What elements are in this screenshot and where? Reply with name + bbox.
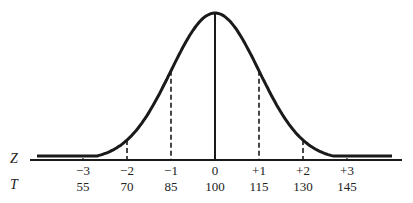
- t-tick-label: 85: [165, 179, 178, 195]
- z-tick-label: −1: [164, 163, 178, 179]
- t-tick-label: 115: [249, 179, 268, 195]
- z-tick-label: 0: [212, 163, 219, 179]
- z-tick-label: +2: [296, 163, 310, 179]
- t-tick-label: 100: [205, 179, 225, 195]
- z-axis-label: Z: [10, 151, 18, 167]
- t-axis-label: T: [10, 177, 18, 193]
- z-tick-label: +3: [340, 163, 354, 179]
- t-tick-label: 145: [337, 179, 357, 195]
- t-tick-label: 130: [293, 179, 313, 195]
- z-tick-label: −3: [76, 163, 90, 179]
- z-tick-label: +1: [252, 163, 266, 179]
- t-tick-label: 55: [77, 179, 90, 195]
- t-tick-label: 70: [121, 179, 134, 195]
- z-tick-label: −2: [120, 163, 134, 179]
- reference-lines: [83, 13, 347, 160]
